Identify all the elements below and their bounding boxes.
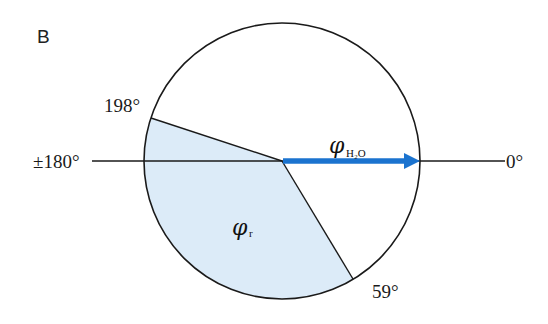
svg-text:r: r (249, 227, 253, 239)
svg-text:H₂O: H₂O (346, 147, 366, 159)
angle-label-59: 59° (372, 281, 399, 302)
axis-label-180: ±180° (33, 151, 80, 172)
arrow-head-icon (404, 153, 420, 169)
axis-label-0: 0° (506, 151, 523, 172)
phase-diagram: B 198° ±180° 0° 59° φ H₂O φ r (0, 0, 548, 324)
svg-text:φ: φ (232, 215, 248, 240)
panel-label: B (37, 26, 50, 47)
svg-text:φ: φ (329, 133, 345, 158)
water-phase-label: φ H₂O (329, 133, 366, 159)
phase-range-sector (144, 118, 353, 298)
angle-label-198: 198° (104, 95, 140, 116)
